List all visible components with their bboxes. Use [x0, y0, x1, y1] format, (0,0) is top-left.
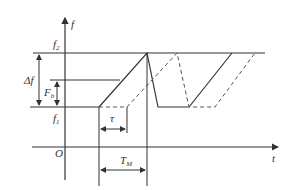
tau-label: τ: [110, 112, 115, 124]
diagram-canvas: f t O f2 f1 Δf Fb τ TM: [0, 0, 292, 190]
fb-label: Fb: [43, 86, 55, 100]
f1-label: f1: [53, 112, 60, 126]
t-axis-label: t: [272, 152, 276, 164]
origin-label: O: [55, 147, 63, 159]
fmcw-frequency-diagram: f t O f2 f1 Δf Fb τ TM: [0, 0, 292, 190]
f2-label: f2: [53, 38, 60, 52]
tm-label: TM: [120, 154, 133, 168]
delta-f-label: Δf: [23, 74, 35, 86]
f-axis-label: f: [71, 18, 76, 30]
